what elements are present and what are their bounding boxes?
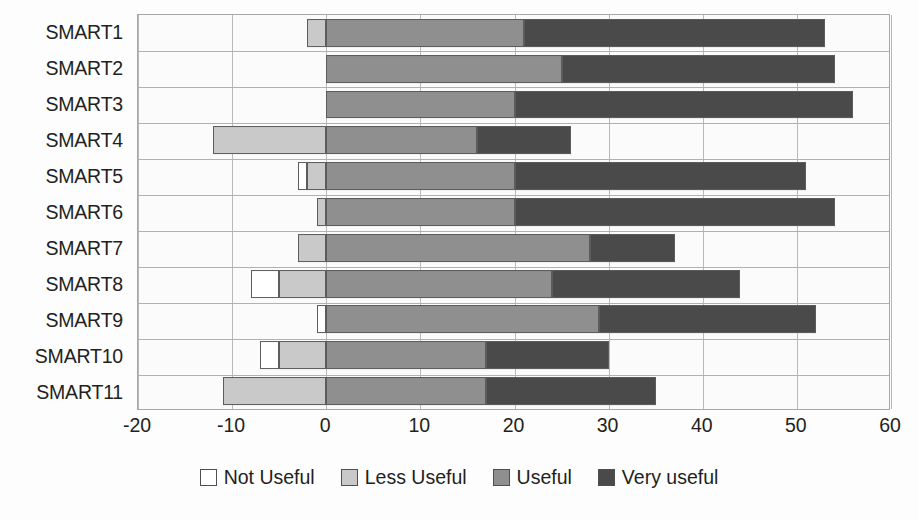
bar-segment [326,234,590,262]
bar-segment [515,198,835,226]
bar-segment [590,234,675,262]
bar-segment [260,341,279,369]
bar-segment [326,341,486,369]
y-axis-label: SMART2 [0,50,131,86]
y-axis-label: SMART6 [0,194,131,230]
bar-segment [515,91,854,119]
y-axis-label: SMART7 [0,230,131,266]
x-axis-tick-labels: -20-100102030405060 [137,414,890,444]
y-axis-label: SMART5 [0,158,131,194]
bar-segment [326,91,514,119]
bar-segment [326,270,552,298]
table-row [138,87,889,123]
bar-rows [138,15,889,409]
x-axis-tick-label: -10 [217,414,245,437]
x-axis-tick-label: 50 [785,414,807,437]
bar-segment [307,162,326,190]
x-axis-tick-label: 40 [691,414,713,437]
legend-label: Useful [517,466,572,489]
bar-segment [326,377,486,405]
legend-item: Very useful [598,466,718,489]
y-axis-label: SMART8 [0,266,131,302]
bar-segment [515,162,807,190]
vertical-gridline [891,15,892,409]
x-axis-tick-label: 20 [503,414,525,437]
bar-segment [317,305,326,333]
bar-segment [524,19,825,47]
bar-segment [326,55,561,83]
bar-segment [298,162,307,190]
bar-segment [486,341,608,369]
legend-item: Not Useful [200,466,315,489]
y-axis-category-labels: SMART1SMART2SMART3SMART4SMART5SMART6SMAR… [0,14,131,410]
bar-segment [326,19,524,47]
y-axis-label: SMART10 [0,338,131,374]
y-axis-label: SMART4 [0,122,131,158]
table-row [138,194,889,230]
bar-segment [213,126,326,154]
y-axis-label: SMART1 [0,14,131,50]
bar-segment [307,19,326,47]
legend-item: Less Useful [341,466,467,489]
bar-segment [552,270,740,298]
y-axis-label: SMART11 [0,374,131,410]
bar-segment [326,162,514,190]
stacked-bar-chart: SMART1SMART2SMART3SMART4SMART5SMART6SMAR… [0,0,918,520]
legend-swatch-icon [493,469,510,486]
bar-segment [317,198,326,226]
bar-segment [326,198,514,226]
table-row [138,337,889,373]
table-row [138,266,889,302]
bar-segment [279,341,326,369]
plot-area [137,14,890,410]
bar-segment [223,377,327,405]
x-axis-tick-label: 60 [879,414,901,437]
table-row [138,373,889,409]
bar-segment [279,270,326,298]
x-axis-tick-label: -20 [123,414,151,437]
legend-item: Useful [493,466,572,489]
x-axis-tick-label: 10 [409,414,431,437]
table-row [138,302,889,338]
bar-segment [486,377,655,405]
x-axis-tick-label: 0 [320,414,331,437]
bar-segment [251,270,279,298]
bar-segment [298,234,326,262]
bar-segment [477,126,571,154]
y-axis-label: SMART9 [0,302,131,338]
legend-swatch-icon [200,469,217,486]
legend-label: Very useful [622,466,718,489]
chart-legend: Not UsefulLess UsefulUsefulVery useful [0,466,918,489]
bar-segment [326,305,599,333]
y-axis-label: SMART3 [0,86,131,122]
legend-swatch-icon [598,469,615,486]
bar-segment [599,305,815,333]
legend-swatch-icon [341,469,358,486]
bar-segment [562,55,835,83]
table-row [138,51,889,87]
table-row [138,158,889,194]
legend-label: Less Useful [365,466,467,489]
table-row [138,15,889,51]
legend-label: Not Useful [224,466,315,489]
x-axis-tick-label: 30 [597,414,619,437]
table-row [138,230,889,266]
table-row [138,122,889,158]
bar-segment [326,126,477,154]
